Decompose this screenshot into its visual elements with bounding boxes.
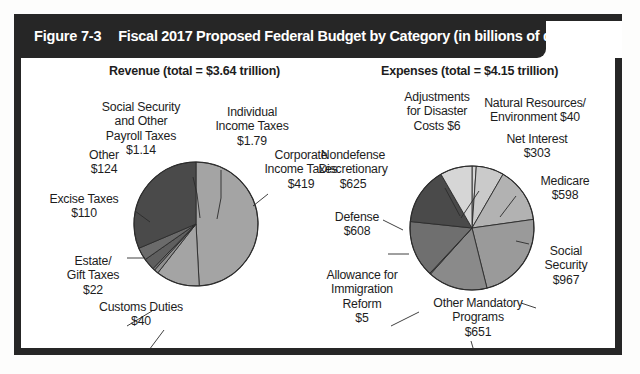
banner-notch (546, 21, 622, 58)
expenses-label-defense: Defense $608 (321, 210, 393, 239)
leader-corporate (253, 194, 268, 206)
expenses-label-net-interest: Net Interest $303 (491, 132, 583, 161)
revenue-label-customs: Customs Duties $40 (83, 300, 199, 329)
expenses-pie (410, 166, 534, 290)
figure-container: Figure 7-3 Fiscal 2017 Proposed Federal … (0, 0, 640, 374)
expenses-label-immigration: Allowance for Immigration Reform $5 (315, 268, 409, 326)
revenue-pie (134, 162, 258, 286)
expenses-label-medicare: Medicare $598 (525, 174, 605, 203)
revenue-label-excise: Excise Taxes $110 (39, 192, 129, 221)
leader-customs (143, 330, 164, 348)
leader-other-mandatory (471, 341, 476, 348)
figure-title-banner: Figure 7-3 Fiscal 2017 Proposed Federal … (14, 14, 546, 58)
revenue-label-individual: Individual Income Taxes $1.79 (193, 105, 311, 148)
revenue-label-other: Other $124 (73, 148, 135, 177)
revenue-label-estate: Estate/ Gift Taxes $22 (57, 254, 129, 297)
charts-panel: Revenue (total = $3.64 trillion) Expense… (21, 58, 615, 348)
figure-title: Fiscal 2017 Proposed Federal Budget by C… (118, 28, 593, 44)
figure-number: Figure 7-3 (34, 28, 101, 44)
expenses-label-other-mandatory: Other Mandatory Programs $651 (419, 296, 537, 339)
expenses-label-natural-resources: Natural Resources/ Environment $40 (467, 96, 603, 125)
expenses-label-social-security: Social Security $967 (529, 244, 603, 287)
expenses-label-nondefense: Nondefense Discretionary $625 (307, 148, 399, 191)
